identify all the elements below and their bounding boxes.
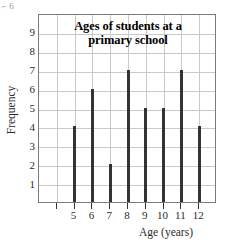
bar [127,70,130,202]
y-axis-tick-label: 5 [20,103,35,114]
bar [180,70,183,202]
y-axis-tick-label: 8 [20,46,35,57]
y-axis-tick-label: 7 [20,65,35,76]
bar [73,126,76,202]
bar [198,126,201,202]
bar [109,164,112,202]
bar [162,108,165,203]
x-axis-tick-labels: 56789101112 [38,209,216,223]
chart-title: Ages of students at aprimary school [47,19,209,47]
y-axis-tick-label: 3 [20,141,35,152]
y-axis-tick-label: 1 [20,179,35,190]
bar-chart-screenshot: ⌐ 6 123456789 Frequency Ages of students… [0,0,236,249]
x-axis-title: Age (years) [116,226,216,239]
scan-artifact: ⌐ 6 [2,1,14,35]
y-axis-tick-label: 2 [20,160,35,171]
y-axis-tick-label: 6 [20,84,35,95]
x-axis-tick-label: 12 [188,209,208,222]
y-axis-title: Frequency [5,68,17,152]
bar [144,108,147,203]
y-axis-tick-labels: 123456789 [20,14,35,203]
y-axis-tick-label: 4 [20,122,35,133]
y-axis-tick-label: 9 [20,27,35,38]
plot-area: Ages of students at aprimary school [38,14,216,203]
bar [91,89,94,202]
